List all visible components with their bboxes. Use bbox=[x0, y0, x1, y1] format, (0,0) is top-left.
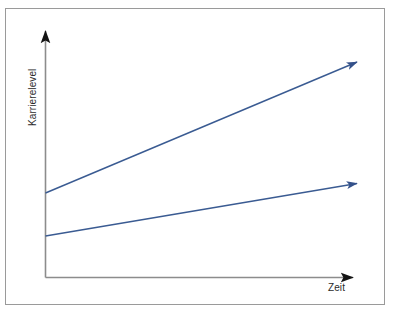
series-line-steep bbox=[46, 62, 358, 193]
chart-plot-area bbox=[0, 0, 393, 314]
series-line-shallow bbox=[46, 184, 358, 237]
x-axis-label: Zeit bbox=[328, 282, 345, 293]
chart-figure: Karrierelevel Zeit bbox=[0, 0, 393, 314]
y-axis-label: Karrierelevel bbox=[27, 69, 38, 126]
